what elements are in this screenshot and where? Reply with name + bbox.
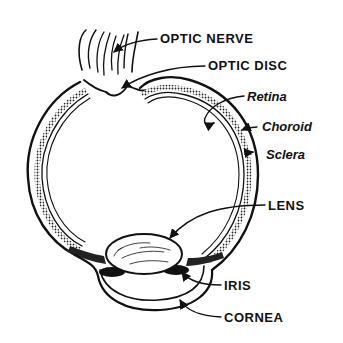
- label-retina: Retina: [247, 89, 287, 104]
- retina-layer: [47, 97, 239, 254]
- label-choroid: Choroid: [262, 119, 313, 134]
- label-iris: IRIS: [224, 278, 251, 293]
- label-optic-disc: OPTIC DISC: [208, 58, 288, 73]
- lens: [106, 234, 182, 274]
- label-sclera: Sclera: [266, 147, 305, 162]
- optic-nerve: [79, 30, 146, 92]
- label-optic-nerve: OPTIC NERVE: [160, 31, 253, 46]
- label-lens: LENS: [268, 198, 305, 213]
- eye-anatomy-diagram: OPTIC NERVE OPTIC DISC Retina Choroid Sc…: [0, 0, 343, 343]
- eye-drawing: OPTIC NERVE OPTIC DISC Retina Choroid Sc…: [0, 0, 343, 343]
- optic-disc: [106, 88, 126, 95]
- label-cornea: CORNEA: [224, 310, 283, 325]
